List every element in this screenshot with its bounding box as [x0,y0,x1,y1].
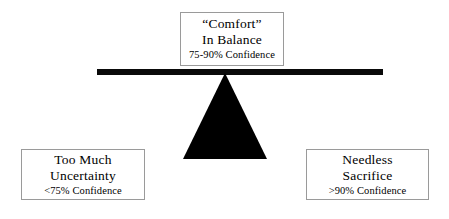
sacrifice-title-line1: Needless [342,152,392,168]
comfort-title-line2: In Balance [202,32,262,48]
label-box-needless-sacrifice: Needless Sacrifice >90% Confidence [306,149,429,200]
uncertainty-confidence-range: <75% Confidence [44,185,122,197]
balance-diagram: “Comfort” In Balance 75-90% Confidence T… [0,0,449,219]
comfort-title-line1: “Comfort” [202,16,262,32]
comfort-confidence-range: 75-90% Confidence [189,49,275,61]
uncertainty-title-line1: Too Much [54,152,111,168]
sacrifice-confidence-range: >90% Confidence [329,185,407,197]
sacrifice-title-line2: Sacrifice [343,168,393,184]
fulcrum-triangle [183,73,267,159]
uncertainty-title-line2: Uncertainty [50,168,116,184]
label-box-too-much-uncertainty: Too Much Uncertainty <75% Confidence [21,149,145,200]
label-box-comfort: “Comfort” In Balance 75-90% Confidence [180,12,284,66]
